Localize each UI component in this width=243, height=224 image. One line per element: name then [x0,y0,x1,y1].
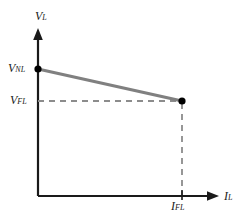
voltage-regulation-diagram: VL IL VNL VFL IFL [0,0,243,224]
vnl-label: VNL [8,62,25,74]
vfl-label-sub: FL [17,97,26,106]
y-axis-label: VL [35,10,47,22]
voltage-regulation-line [38,69,182,101]
vfl-label: VFL [10,94,27,106]
x-axis-arrow-icon [207,191,219,201]
y-axis-label-sub: L [42,13,46,22]
no-load-point-marker [34,65,41,72]
x-axis-label: IL [224,190,232,202]
vnl-label-sub: NL [15,65,25,74]
x-axis-label-sub: L [228,193,232,202]
ifl-label-sub: FL [175,203,184,212]
y-axis-arrow-icon [33,28,43,40]
y-axis-group [33,28,43,196]
full-load-point-marker [178,97,185,104]
x-axis-group [38,191,219,201]
ifl-label: IFL [171,200,184,212]
plot-area [0,0,243,224]
